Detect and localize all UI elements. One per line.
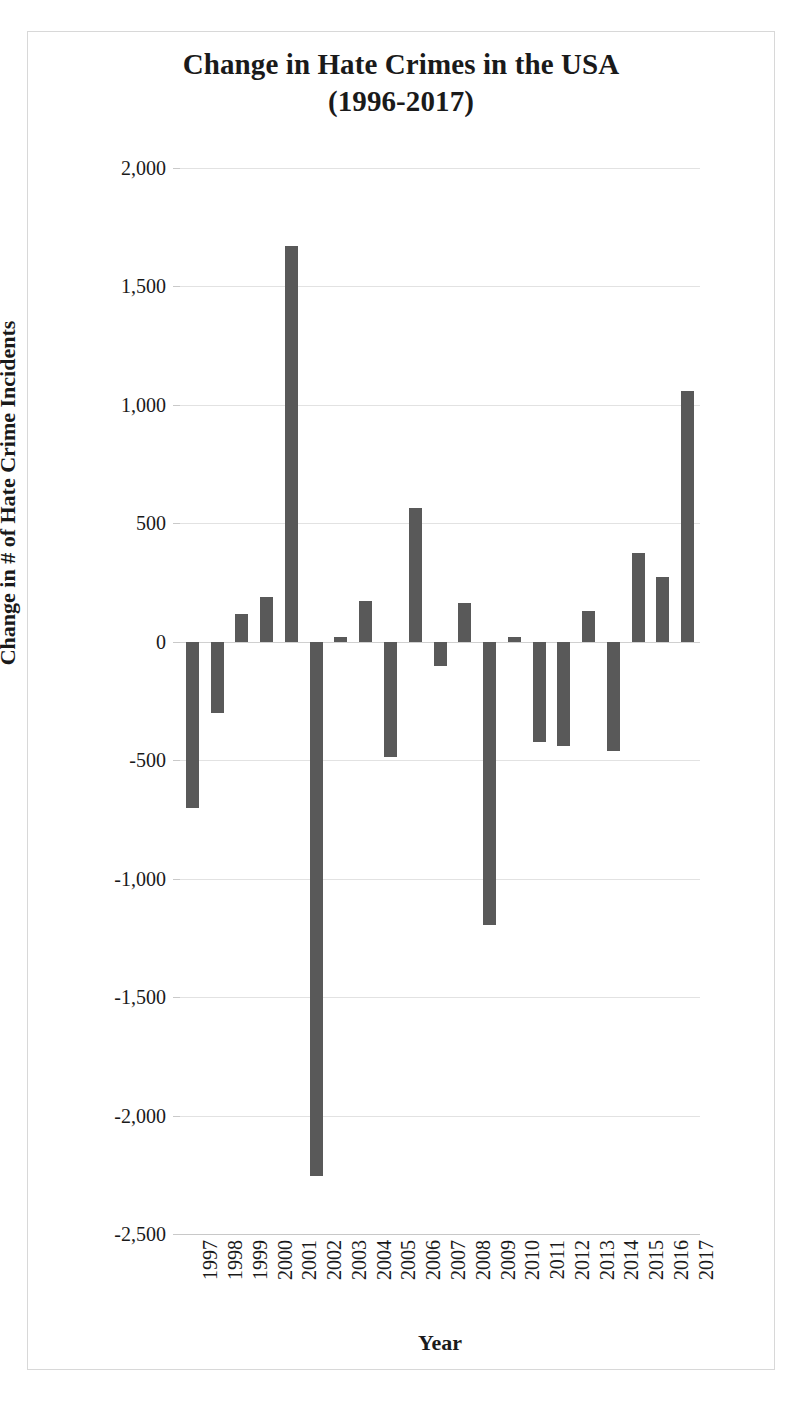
bar-2015 <box>632 553 645 641</box>
x-tick-label-2017: 2017 <box>695 1240 718 1280</box>
y-tick-label: -2,000 <box>114 1104 166 1127</box>
bar-2004 <box>359 601 372 642</box>
x-tick-label-2016: 2016 <box>670 1240 693 1280</box>
x-tick-label-2011: 2011 <box>546 1240 569 1279</box>
bar-2003 <box>334 637 347 642</box>
y-tick-mark <box>173 286 180 287</box>
x-tick-label-2013: 2013 <box>596 1240 619 1280</box>
bar-2010 <box>508 637 521 642</box>
x-tick-label-1997: 1997 <box>199 1240 222 1280</box>
y-tick-label: -2,500 <box>114 1223 166 1246</box>
y-tick-mark <box>173 168 180 169</box>
bar-1997 <box>186 642 199 808</box>
bar-2007 <box>434 642 447 666</box>
y-axis-title: Change in # of Hate Crime Incidents <box>0 283 21 703</box>
gridline--2500 <box>180 1234 700 1235</box>
x-tick-label-2003: 2003 <box>348 1240 371 1280</box>
gridline-1000 <box>180 405 700 406</box>
y-tick-label: 500 <box>136 512 166 535</box>
gridline--1000 <box>180 879 700 880</box>
y-tick-label: -500 <box>129 749 166 772</box>
bar-2008 <box>458 603 471 641</box>
y-tick-mark <box>173 879 180 880</box>
x-axis-title: Year <box>180 1330 700 1356</box>
x-axis-tick-labels: 1997199819992000200120022003200420052006… <box>180 1240 700 1326</box>
y-tick-mark <box>173 1116 180 1117</box>
y-tick-mark <box>173 997 180 998</box>
x-tick-label-2015: 2015 <box>645 1240 668 1280</box>
y-tick-label: -1,000 <box>114 867 166 890</box>
x-tick-label-2001: 2001 <box>298 1240 321 1280</box>
y-tick-mark <box>173 642 180 643</box>
gridline-1500 <box>180 286 700 287</box>
bar-2013 <box>582 611 595 642</box>
bar-1998 <box>211 642 224 713</box>
x-tick-label-2010: 2010 <box>521 1240 544 1280</box>
x-tick-label-2007: 2007 <box>447 1240 470 1280</box>
x-tick-label-1999: 1999 <box>249 1240 272 1280</box>
y-tick-label: 1,000 <box>121 393 166 416</box>
bar-2002 <box>310 642 323 1176</box>
x-tick-label-2006: 2006 <box>422 1240 445 1280</box>
x-tick-label-2008: 2008 <box>472 1240 495 1280</box>
y-tick-label: 1,500 <box>121 275 166 298</box>
bar-2016 <box>656 577 669 642</box>
y-tick-mark <box>173 405 180 406</box>
bar-2005 <box>384 642 397 757</box>
gridline-2000 <box>180 168 700 169</box>
gridline--2000 <box>180 1116 700 1117</box>
y-tick-label: 0 <box>156 630 166 653</box>
x-tick-label-2000: 2000 <box>274 1240 297 1280</box>
x-tick-label-2009: 2009 <box>497 1240 520 1280</box>
gridline--500 <box>180 760 700 761</box>
x-tick-label-1998: 1998 <box>224 1240 247 1280</box>
gridline-500 <box>180 523 700 524</box>
bar-2006 <box>409 508 422 641</box>
gridline--1500 <box>180 997 700 998</box>
y-tick-label: -1,500 <box>114 986 166 1009</box>
chart-title: Change in Hate Crimes in the USA (1996-2… <box>27 46 775 120</box>
x-tick-label-2005: 2005 <box>397 1240 420 1280</box>
bar-2001 <box>285 246 298 642</box>
y-tick-label: 2,000 <box>121 157 166 180</box>
x-tick-label-2004: 2004 <box>373 1240 396 1280</box>
x-tick-label-2002: 2002 <box>323 1240 346 1280</box>
bar-2000 <box>260 597 273 642</box>
plot-area: 2,0001,5001,0005000-500-1,000-1,500-2,00… <box>180 168 700 1234</box>
x-tick-label-2012: 2012 <box>571 1240 594 1280</box>
bar-2009 <box>483 642 496 925</box>
bar-2014 <box>607 642 620 751</box>
y-tick-mark <box>173 523 180 524</box>
bar-2017 <box>681 391 694 642</box>
y-tick-mark <box>173 760 180 761</box>
x-tick-label-2014: 2014 <box>620 1240 643 1280</box>
y-tick-mark <box>173 1234 180 1235</box>
bar-2012 <box>557 642 570 746</box>
bar-2011 <box>533 642 546 743</box>
bar-1999 <box>235 614 248 642</box>
